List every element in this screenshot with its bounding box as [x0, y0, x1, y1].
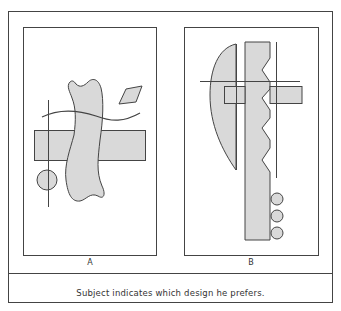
panel-a-diamond [119, 86, 142, 104]
panel-a-circle [37, 170, 57, 190]
panel-a [24, 28, 157, 256]
panel-b-circle-2 [271, 210, 283, 222]
panel-b-cross-bar-left [225, 87, 246, 104]
figure-canvas [0, 0, 341, 311]
panel-b-label: B [248, 258, 254, 267]
panel-b-circle-3 [271, 227, 283, 239]
panel-b-cross-bar-right [270, 87, 302, 104]
panel-b-tall-bar [245, 42, 270, 240]
figure-caption: Subject indicates which design he prefer… [8, 288, 333, 298]
panel-b-teardrop [210, 44, 236, 170]
panel-b [185, 28, 319, 256]
panel-b-circle-1 [271, 193, 283, 205]
panel-a-label: A [87, 258, 92, 267]
